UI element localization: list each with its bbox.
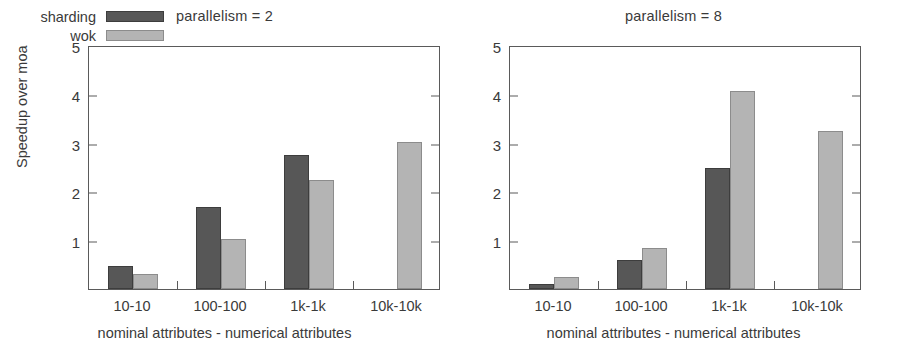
- legend-label: sharding: [10, 9, 106, 25]
- bar-sharding-1k-1k: [284, 155, 309, 289]
- bar-sharding-100-100: [196, 207, 221, 289]
- plot-area: 12345: [509, 46, 861, 290]
- y-axis-tick-label: 2: [72, 185, 80, 202]
- y-axis-tick-label: 4: [493, 87, 501, 104]
- x-axis-tick-label-1k-1k: 1k-1k: [711, 298, 746, 314]
- x-axis-label: nominal attributes - numerical attribute…: [0, 325, 449, 341]
- bar-wok-100-100: [642, 248, 667, 289]
- x-axis-tick-mark: [686, 281, 687, 289]
- x-axis-tick-mark: [774, 281, 775, 289]
- figure: parallelism = 2 Speedup over moa 12345 1…: [0, 0, 898, 352]
- legend: shardingwok: [10, 8, 164, 46]
- x-axis-tick-label-10k-10k: 10k-10k: [370, 298, 422, 314]
- bar-wok-10k-10k: [397, 142, 422, 289]
- bars-layer: [510, 47, 860, 289]
- bar-wok-10k-10k: [818, 131, 843, 289]
- x-axis-label: nominal attributes - numerical attribute…: [449, 325, 898, 341]
- x-axis-tick-label-1k-1k: 1k-1k: [290, 298, 325, 314]
- panel-parallelism-2: parallelism = 2 Speedup over moa 12345 1…: [0, 0, 449, 352]
- bar-wok-10-10: [554, 277, 579, 289]
- legend-label: wok: [10, 28, 106, 44]
- plot-area: 12345: [88, 46, 440, 290]
- y-axis-tick-label: 1: [493, 234, 501, 251]
- legend-item-wok: wok: [10, 27, 164, 44]
- bars-layer: [89, 47, 439, 289]
- y-axis-tick-label: 3: [72, 136, 80, 153]
- x-axis-tick-label-10-10: 10-10: [113, 298, 150, 314]
- legend-swatch: [106, 11, 164, 22]
- x-axis-tick-label-100-100: 100-100: [193, 298, 246, 314]
- y-axis-tick-label: 4: [72, 87, 80, 104]
- x-axis-tick-mark: [177, 281, 178, 289]
- y-axis-tick-label: 2: [493, 185, 501, 202]
- y-axis-tick-label: 5: [493, 39, 501, 56]
- y-axis-tick-label: 3: [493, 136, 501, 153]
- bar-wok-100-100: [221, 239, 246, 289]
- x-axis-tick-mark: [598, 281, 599, 289]
- x-axis-tick-label-10-10: 10-10: [534, 298, 571, 314]
- x-axis-tick-mark: [353, 281, 354, 289]
- bar-wok-10-10: [133, 274, 158, 289]
- bar-sharding-10-10: [529, 284, 554, 289]
- x-axis-tick-label-100-100: 100-100: [614, 298, 667, 314]
- x-axis-tick-mark: [265, 281, 266, 289]
- bar-sharding-10-10: [108, 266, 133, 289]
- bar-wok-1k-1k: [309, 180, 334, 289]
- panel-title: parallelism = 8: [449, 8, 898, 24]
- bar-sharding-1k-1k: [705, 168, 730, 289]
- legend-item-sharding: sharding: [10, 8, 164, 25]
- x-axis-tick-label-10k-10k: 10k-10k: [791, 298, 843, 314]
- y-axis-label: Speedup over moa: [14, 45, 30, 168]
- bar-wok-1k-1k: [730, 91, 755, 289]
- y-axis-tick-label: 1: [72, 234, 80, 251]
- panel-parallelism-8: parallelism = 8 12345 10-10100-1001k-1k1…: [449, 0, 898, 352]
- legend-swatch: [106, 30, 164, 41]
- bar-sharding-100-100: [617, 260, 642, 289]
